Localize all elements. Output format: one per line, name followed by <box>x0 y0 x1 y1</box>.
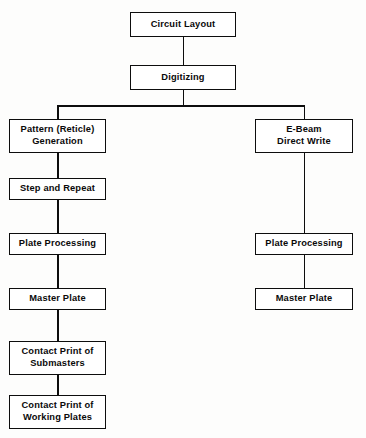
connector-split-to-left-branch <box>57 105 59 120</box>
node-digitizing[interactable]: Digitizing <box>130 65 236 90</box>
node-contact-print-working-plates-label: Contact Print of Working Plates <box>21 400 93 423</box>
flowchart-canvas: Circuit Layout Digitizing Pattern (Retic… <box>0 0 366 438</box>
connector-ebeam-to-plate-processing-right <box>304 152 306 234</box>
node-circuit-layout[interactable]: Circuit Layout <box>130 12 236 37</box>
connector-circuit-layout-to-digitizing <box>183 36 185 65</box>
node-ebeam-direct-write-label: E-Beam Direct Write <box>277 124 331 147</box>
node-pattern-reticle-generation[interactable]: Pattern (Reticle) Generation <box>9 119 106 153</box>
node-step-and-repeat[interactable]: Step and Repeat <box>9 178 106 200</box>
node-contact-print-working-plates[interactable]: Contact Print of Working Plates <box>9 395 106 429</box>
node-plate-processing-left-label: Plate Processing <box>19 238 96 250</box>
node-plate-processing-left[interactable]: Plate Processing <box>9 233 106 255</box>
connector-digitizing-to-split <box>183 89 185 106</box>
node-contact-print-submasters-label: Contact Print of Submasters <box>21 346 93 369</box>
connector-pattern-to-step-and-repeat <box>57 152 59 179</box>
node-master-plate-right-label: Master Plate <box>276 293 333 305</box>
connector-plate-processing-to-master-plate-left <box>57 254 59 289</box>
node-step-and-repeat-label: Step and Repeat <box>20 183 95 195</box>
connector-split-bar <box>57 105 305 107</box>
node-pattern-reticle-generation-label: Pattern (Reticle) Generation <box>21 124 95 147</box>
node-circuit-layout-label: Circuit Layout <box>151 19 216 31</box>
node-plate-processing-right[interactable]: Plate Processing <box>255 233 353 255</box>
node-master-plate-right[interactable]: Master Plate <box>255 288 353 310</box>
node-ebeam-direct-write[interactable]: E-Beam Direct Write <box>255 119 353 153</box>
connector-master-plate-to-contact-print-submasters <box>57 309 59 342</box>
connector-step-and-repeat-to-plate-processing <box>57 199 59 234</box>
node-master-plate-left[interactable]: Master Plate <box>9 288 106 310</box>
node-digitizing-label: Digitizing <box>161 72 204 84</box>
connector-plate-processing-to-master-plate-right <box>304 254 306 289</box>
connector-submasters-to-working-plates <box>57 374 59 396</box>
node-plate-processing-right-label: Plate Processing <box>265 238 342 250</box>
node-master-plate-left-label: Master Plate <box>29 293 86 305</box>
connector-split-to-right-branch <box>304 105 306 120</box>
node-contact-print-submasters[interactable]: Contact Print of Submasters <box>9 341 106 375</box>
